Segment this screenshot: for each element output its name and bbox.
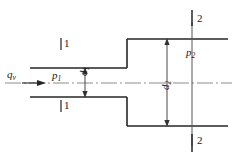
diameter-1-symbol: d [77,71,89,77]
flow-arrow-head [37,80,46,86]
pressure-1-label: p1 [52,70,61,83]
section-2-bottom-label: 2 [197,135,203,146]
flow-rate-label: qv [7,69,16,82]
diameter-1-label: d1 [78,67,91,76]
diameter-2-label: d2 [160,81,173,90]
section-1-top-label: 1 [64,38,70,49]
pressure-2-subscript: 2 [192,51,196,60]
flow-rate-subscript: v [13,73,16,82]
pipe-expansion-diagram: qv p1 p2 d1 d2 1 1 2 2 [0,0,236,165]
diameter-1-subscript: 1 [82,67,91,71]
diameter-2-subscript: 2 [164,81,173,85]
section-1-bottom-label: 1 [64,100,70,111]
pressure-2-label: p2 [186,47,195,60]
diameter-2-symbol: d [159,85,171,91]
section-2-top-label: 2 [197,13,203,24]
pressure-1-subscript: 1 [58,74,62,83]
